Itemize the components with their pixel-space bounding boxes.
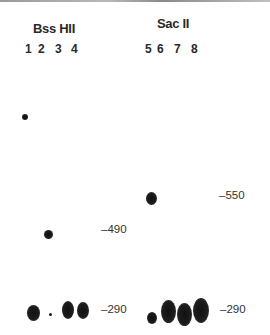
- lane-number: 1: [25, 42, 38, 56]
- marker-550: –550: [219, 189, 245, 201]
- band-lane4-290: [77, 302, 89, 319]
- top-border: [0, 0, 270, 2]
- band-lane8-290: [193, 298, 209, 323]
- band-lane1-290: [27, 305, 40, 321]
- band-lane3-290: [62, 301, 74, 319]
- lane-numbers-right: 5 6 7 8: [145, 42, 205, 56]
- lane-numbers-left: 1 2 3 4: [25, 42, 85, 56]
- marker-290-right: –290: [220, 303, 246, 315]
- lane-number: 7: [174, 42, 191, 56]
- marker-490: –490: [101, 223, 127, 235]
- band-lane7-290: [177, 303, 192, 326]
- lane-number: 6: [157, 42, 174, 56]
- enzyme-label-sacii: Sac II: [157, 16, 189, 31]
- band-lane5-290: [147, 312, 157, 324]
- band-lane6-550: [146, 192, 157, 205]
- gel-figure: Bss HII Sac II 1 2 3 4 5 6 7 8 –490 –290…: [0, 0, 270, 335]
- lane-number: 4: [71, 42, 85, 56]
- band-lane2-290: [49, 313, 52, 316]
- band-lane6-290: [161, 300, 176, 323]
- enzyme-label-bsshii: Bss HII: [33, 21, 75, 36]
- marker-290-left: –290: [101, 303, 127, 315]
- lane-number: 3: [55, 42, 71, 56]
- lane-number: 8: [191, 42, 205, 56]
- lane-number: 5: [145, 42, 157, 56]
- lane-number: 2: [38, 42, 55, 56]
- band-lane3-490: [44, 230, 53, 239]
- band-lane1-high: [22, 114, 28, 120]
